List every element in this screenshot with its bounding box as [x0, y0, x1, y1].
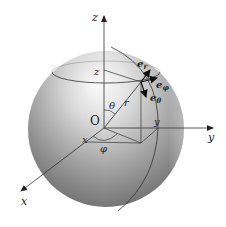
spherical-coordinates-diagram: z y x O z y x θ φ r er eφ eθ — [0, 0, 226, 227]
z-axis-label: z — [91, 11, 98, 24]
origin-label: O — [90, 114, 100, 128]
y-projection-label: y — [153, 116, 160, 127]
x-axis-label: x — [21, 195, 28, 208]
z-projection-label: z — [93, 66, 100, 77]
y-axis-label: y — [207, 131, 215, 144]
phi-label: φ — [100, 143, 107, 154]
x-projection-label: x — [82, 134, 88, 145]
theta-label: θ — [109, 100, 115, 111]
